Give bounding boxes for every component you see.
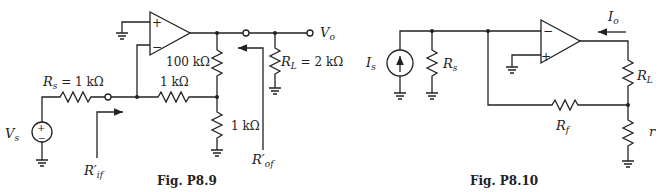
figure-caption-p8-9: Fig. P8.9 <box>157 174 217 188</box>
rl-label: RL <box>636 68 653 85</box>
current-source-icon <box>387 50 413 99</box>
op-amp-icon: + − <box>150 12 190 55</box>
r-1k-shunt-label: 1 kΩ <box>231 119 260 133</box>
resistor-rs-icon <box>42 92 105 122</box>
output-terminal-open-icon <box>243 30 249 36</box>
ground-icon <box>506 67 518 73</box>
io-label: Io <box>607 9 619 26</box>
rif-label: R′if <box>83 163 105 180</box>
rof-label: R′of <box>251 152 275 169</box>
svg-text:+: + <box>541 50 551 64</box>
svg-text:−: − <box>38 133 46 143</box>
figure-caption-p8-10: Fig. P8.10 <box>470 174 538 188</box>
resistor-r-icon <box>622 105 634 167</box>
plus-input-label: + <box>152 16 162 30</box>
svg-text:−: − <box>543 24 553 38</box>
svg-text:+: + <box>37 122 45 133</box>
resistor-rs-icon <box>426 31 438 99</box>
resistor-rl-icon <box>580 41 633 104</box>
input-terminal-open-icon <box>105 94 111 100</box>
r-label: r <box>649 124 656 139</box>
r-100k-label: 100 kΩ <box>166 55 210 69</box>
rif-arrow-icon <box>97 112 123 158</box>
resistor-1k-shunt-icon <box>211 97 223 156</box>
r-1k-series-label: 1 kΩ <box>160 75 189 89</box>
resistor-rl-icon <box>269 33 281 94</box>
minus-input-label: − <box>152 40 162 54</box>
resistor-100k-icon <box>212 33 222 97</box>
vo-terminal-icon <box>307 30 313 36</box>
figure-p8-9: + − Vo 100 kΩ RL = 2 kΩ R′of <box>5 12 343 188</box>
rof-arrow-icon <box>238 48 263 150</box>
voltage-source-icon: + − <box>32 122 52 166</box>
rl-label: RL = 2 kΩ <box>280 54 343 71</box>
vo-label: Vo <box>320 25 335 42</box>
is-label: Is <box>365 55 376 72</box>
op-amp-icon: − + <box>541 20 580 64</box>
figure-p8-10: − + Is Rs RL Io Rf <box>365 9 656 188</box>
rs-label: Rs <box>442 56 458 73</box>
circuit-diagrams: + − Vo 100 kΩ RL = 2 kΩ R′of <box>0 0 662 192</box>
rf-label: Rf <box>555 118 571 135</box>
rs-label: Rs = 1 kΩ <box>42 74 104 91</box>
vs-label: Vs <box>5 126 19 143</box>
resistor-1k-series-icon <box>111 92 217 102</box>
ground-icon <box>116 33 128 39</box>
